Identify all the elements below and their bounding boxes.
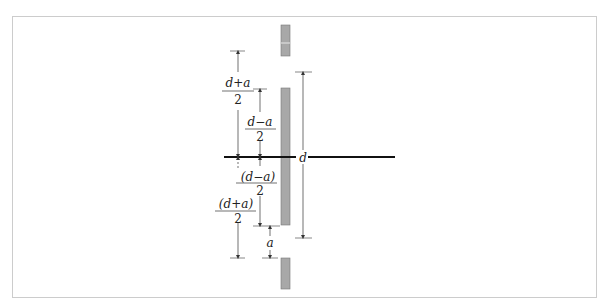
dim-d: d — [296, 73, 308, 237]
top-barrier — [281, 25, 290, 56]
label-a: a — [266, 236, 273, 250]
dim-d-plus-a-over-2-top: d+a 2 — [222, 52, 254, 156]
label-d-minus-a-bottom-num: (d−a) — [241, 170, 276, 184]
dim-d-minus-a-over-2-bottom: (d−a) 2 — [236, 158, 277, 225]
label-d-minus-a-bottom-den: 2 — [256, 184, 264, 198]
label-d-minus-a-den: 2 — [256, 130, 264, 144]
label-d: d — [299, 151, 307, 165]
label-d-plus-a-bottom-den: 2 — [234, 212, 242, 226]
diagram-canvas: d+a 2 d−a 2 d (d−a) 2 (d+a) 2 a — [0, 0, 608, 308]
bottom-barrier — [281, 258, 290, 289]
label-d-minus-a-num: d−a — [248, 115, 273, 129]
label-d-plus-a-bottom-num: (d+a) — [219, 197, 254, 211]
label-d-plus-a-den: 2 — [234, 93, 242, 107]
dim-a: a — [266, 227, 273, 257]
dim-d-minus-a-over-2-top: d−a 2 — [245, 90, 276, 156]
label-d-plus-a-num: d+a — [226, 76, 251, 90]
